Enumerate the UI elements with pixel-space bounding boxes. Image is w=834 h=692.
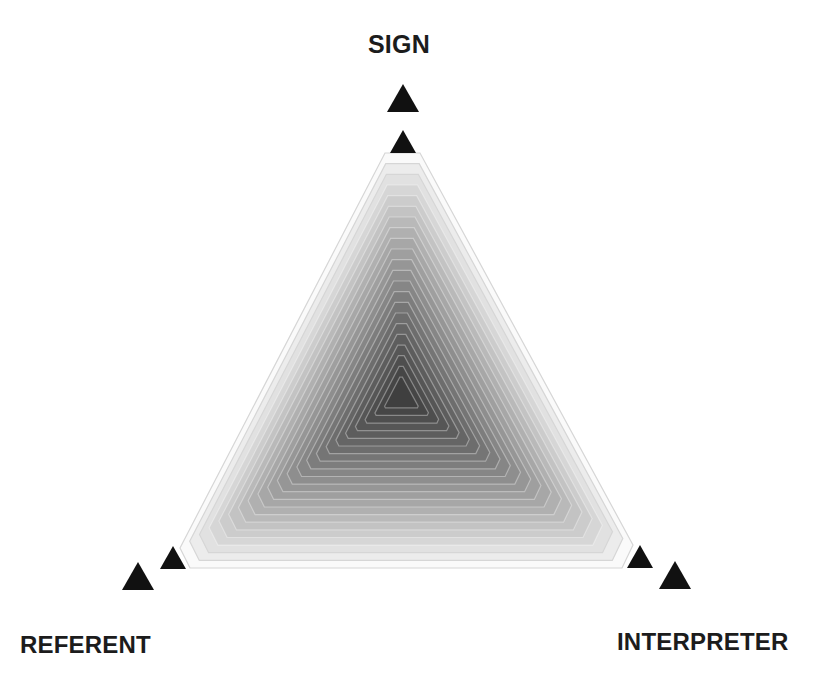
sign-inner-marker-icon bbox=[390, 130, 416, 153]
contour-bands bbox=[180, 153, 633, 568]
sign-outer-marker-icon bbox=[387, 84, 419, 112]
referent-outer-marker-icon bbox=[122, 562, 154, 590]
referent-inner-marker-icon bbox=[160, 546, 186, 569]
vertex-label-interpreter: INTERPRETER bbox=[617, 630, 789, 654]
vertex-label-referent: REFERENT bbox=[20, 633, 151, 657]
interpreter-inner-marker-icon bbox=[627, 545, 653, 568]
vertex-label-sign: SIGN bbox=[368, 32, 430, 56]
interpreter-outer-marker-icon bbox=[659, 561, 691, 589]
semiotic-triangle-diagram: SIGN REFERENT INTERPRETER bbox=[0, 0, 834, 692]
